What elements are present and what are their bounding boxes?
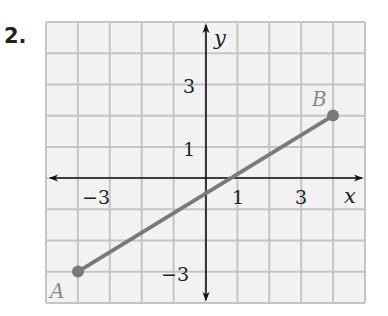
coordinate-graph: y x −3 1 3 3 1 −3 A B [0,0,388,316]
y-tick-label: 3 [183,75,195,97]
y-tick-label: −3 [161,263,189,285]
point-a-label: A [48,279,64,303]
point-b-label: B [311,87,327,111]
x-tick-label: 1 [232,186,244,208]
y-axis-label: y [213,26,227,50]
x-tick-label: 3 [295,186,307,208]
point-a [72,266,84,278]
point-b [327,110,339,122]
y-tick-label: 1 [183,138,195,160]
x-axis-label: x [344,184,356,208]
x-tick-label: −3 [82,186,110,208]
